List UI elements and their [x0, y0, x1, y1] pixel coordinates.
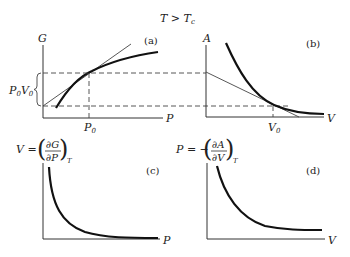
svg-text:∂G: ∂G: [46, 139, 59, 150]
svg-text:(: (: [203, 135, 212, 163]
svg-text:∂A: ∂A: [212, 139, 224, 150]
v-formula: V = ( ∂G ∂P ) T: [16, 135, 73, 165]
panel-d: V (d) P = − ( ∂A ∂V ) T: [175, 135, 337, 247]
panel-c-tag: (c): [146, 165, 160, 176]
svg-text:∂P: ∂P: [46, 152, 58, 163]
p-axis-label: P: [165, 112, 174, 125]
v-of-p-curve: [49, 167, 158, 238]
v0-label: V0: [268, 121, 281, 135]
svg-text:T: T: [233, 157, 239, 165]
brace-icon: [34, 73, 41, 106]
panel-d-tag: (d): [306, 165, 320, 176]
panel-b: A V (b) V0: [202, 32, 336, 135]
title: T > Tc: [160, 12, 195, 26]
g-axis-label: G: [38, 32, 47, 45]
p0-label: P0: [83, 121, 96, 135]
panel-a-tag: (a): [144, 35, 158, 46]
svg-text:T: T: [67, 157, 73, 165]
v-axis-label: V: [327, 112, 336, 125]
a-curve: [226, 43, 324, 114]
p-formula: P = − ( ∂A ∂V ) T: [175, 135, 239, 165]
a-axis-label: A: [202, 32, 211, 45]
p0v0-label: P0V0: [8, 84, 34, 98]
tangent-line-b: [206, 72, 299, 117]
panel-b-tag: (b): [306, 38, 320, 49]
svg-text:(: (: [37, 135, 46, 163]
svg-text:V =: V =: [16, 143, 37, 156]
p-axis-label-c: P: [162, 234, 171, 247]
panel-c: P (c) V = ( ∂G ∂P ) T: [16, 135, 171, 247]
thermo-diagram: T > Tc G P (a) P0V0 P0 A V (b) V0: [0, 0, 350, 257]
v-axis-label-d: V: [328, 234, 337, 247]
tangent-line-a: [43, 44, 131, 106]
